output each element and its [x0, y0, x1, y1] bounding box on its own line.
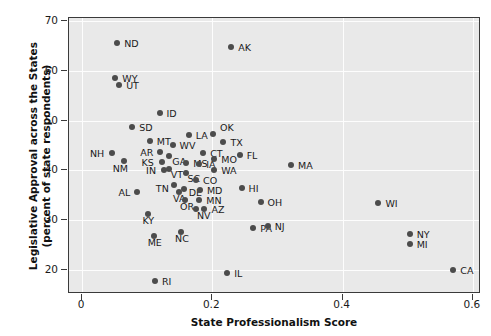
data-point-label: ND: [124, 39, 138, 49]
data-point: [114, 40, 120, 46]
x-axis-tick-label: 0: [61, 299, 101, 310]
data-point: [258, 199, 264, 205]
data-point: [116, 82, 122, 88]
data-point-label: ID: [167, 109, 177, 119]
data-point: [210, 131, 216, 137]
data-point: [265, 223, 271, 229]
y-axis-tick-mark: [61, 269, 67, 270]
data-point: [157, 149, 163, 155]
data-point-label: OK: [220, 123, 234, 133]
gridline-horizontal: [69, 71, 479, 72]
data-point-label: OR: [180, 202, 194, 212]
data-point-label: SD: [139, 123, 152, 133]
x-axis-title: State Professionalism Score: [68, 316, 480, 328]
data-point-label: MI: [417, 240, 428, 250]
data-point-label: TX: [230, 138, 242, 148]
data-point-label: AL: [118, 188, 130, 198]
gridline-vertical: [82, 18, 83, 292]
data-point-label: MO: [221, 155, 237, 165]
data-point: [407, 241, 413, 247]
data-point-label: LA: [196, 131, 208, 141]
data-point: [183, 160, 189, 166]
y-axis-title-line2: (percent of state respondents): [40, 18, 53, 294]
data-point-label: WV: [180, 141, 196, 151]
y-axis-title: Legislative Approval across the States (…: [27, 18, 53, 294]
data-point: [237, 152, 243, 158]
x-axis-tick-label: 0.4: [322, 299, 362, 310]
data-point-label: MT: [157, 137, 171, 147]
data-point: [211, 167, 217, 173]
gridline-horizontal: [69, 121, 479, 122]
data-point: [197, 187, 203, 193]
data-point: [211, 156, 217, 162]
gridline-horizontal: [69, 170, 479, 171]
data-point: [157, 110, 163, 116]
plot-area: NDAKWYUTIDSDLAOKMTTXWVARCTNHFLGANMKSMSIA…: [68, 17, 480, 293]
data-point: [228, 44, 234, 50]
data-point: [134, 189, 140, 195]
data-point: [171, 182, 177, 188]
data-point-label: NY: [417, 230, 430, 240]
data-point-label: AK: [238, 43, 251, 53]
data-point: [129, 124, 135, 130]
data-point-label: AZ: [211, 205, 224, 215]
data-point-label: NC: [175, 234, 189, 244]
data-point-label: NH: [90, 149, 104, 159]
data-point-label: WA: [221, 166, 236, 176]
data-point-label: MD: [207, 186, 223, 196]
data-point-label: VT: [171, 170, 183, 180]
data-point: [250, 225, 256, 231]
data-point: [375, 200, 381, 206]
data-point: [170, 142, 176, 148]
data-point: [147, 138, 153, 144]
gridline-horizontal: [69, 21, 479, 22]
data-point-label: IL: [234, 269, 242, 279]
data-point: [239, 185, 245, 191]
data-point: [224, 270, 230, 276]
x-axis-tick-label: 0.6: [452, 299, 491, 310]
data-point-label: MA: [298, 161, 313, 171]
y-axis-tick-mark: [61, 120, 67, 121]
data-point-label: CA: [460, 266, 473, 276]
gridline-horizontal: [69, 270, 479, 271]
data-point-label: HI: [249, 184, 259, 194]
y-axis-tick-mark: [61, 169, 67, 170]
data-point: [152, 278, 158, 284]
data-point-label: RI: [162, 277, 171, 287]
data-point-label: IN: [146, 166, 156, 176]
scatter-plot-figure: 203040506070 NDAKWYUTIDSDLAOKMTTXWVARCTN…: [0, 0, 491, 336]
y-axis-tick-mark: [61, 20, 67, 21]
data-point-label: UT: [126, 81, 139, 91]
data-point: [407, 231, 413, 237]
data-point: [288, 162, 294, 168]
y-axis-tick-mark: [61, 70, 67, 71]
data-point-label: OH: [268, 198, 283, 208]
data-point-label: KY: [142, 216, 154, 226]
data-point-label: WI: [385, 199, 397, 209]
data-point: [109, 150, 115, 156]
data-point: [186, 132, 192, 138]
data-point-label: ME: [148, 238, 162, 248]
data-point: [200, 150, 206, 156]
y-axis-tick-mark: [61, 219, 67, 220]
data-point: [220, 139, 226, 145]
gridline-vertical: [473, 18, 474, 292]
data-point-label: TN: [156, 184, 169, 194]
data-point: [196, 197, 202, 203]
data-point-label: NV: [197, 211, 211, 221]
data-point: [159, 159, 165, 165]
data-point-label: FL: [247, 151, 258, 161]
gridline-vertical: [343, 18, 344, 292]
y-axis-title-line1: Legislative Approval across the States: [27, 18, 40, 294]
data-point-label: NJ: [275, 222, 285, 232]
data-point: [450, 267, 456, 273]
x-axis-tick-label: 0.2: [191, 299, 231, 310]
data-point: [112, 75, 118, 81]
data-point-label: NM: [113, 164, 128, 174]
